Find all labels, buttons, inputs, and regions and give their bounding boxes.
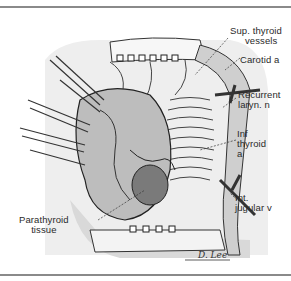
artist-signature: D. Lee	[198, 250, 227, 260]
label-recurrent-laryn: Recurrent laryn. n	[238, 90, 281, 110]
label-int-jugular: Int. jugular v	[235, 193, 272, 213]
label-inf-thyroid: Inf thyroid a	[237, 129, 266, 159]
label-sup-thyroid-vessels: Sup. thyroid vessels	[230, 26, 282, 46]
label-line: laryn. n	[238, 100, 281, 110]
label-line: tissue	[19, 225, 69, 235]
label-parathyroid-tissue: Parathyroid tissue	[19, 215, 69, 235]
label-line: jugular v	[235, 203, 272, 213]
bottom-border-rule	[0, 274, 291, 276]
upper-skin-flap	[110, 38, 205, 62]
parathyroid-region	[132, 165, 168, 205]
label-line: vessels	[230, 36, 282, 46]
label-line: Carotid a	[240, 55, 279, 65]
label-carotid: Carotid a	[240, 55, 279, 65]
lower-skin-flap	[90, 230, 225, 252]
label-line: a	[237, 149, 266, 159]
